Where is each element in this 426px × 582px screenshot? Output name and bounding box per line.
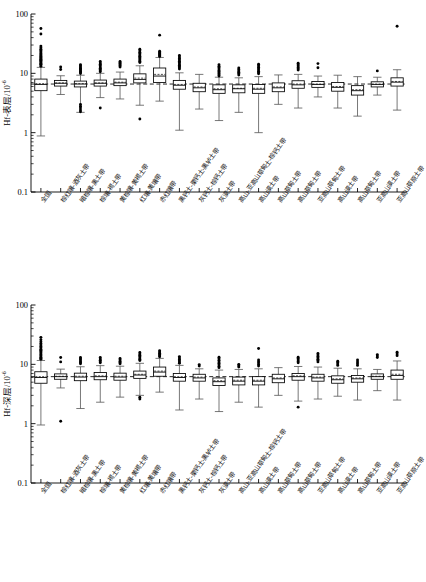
boxplot-box xyxy=(94,60,106,109)
y-tick-label: 0.1 xyxy=(18,479,28,488)
y-tick-label: 10 xyxy=(20,360,28,369)
boxplot-box xyxy=(55,356,67,423)
y-tick-label: 10 xyxy=(20,69,28,78)
boxplot-box xyxy=(312,62,324,97)
panel-deep-layer: Hf-深层/10-6 1001010.1 全国棕红壤-酒灰土带暗棕壤-黑土带棕壤… xyxy=(0,291,412,582)
y-tick-label: 1 xyxy=(24,420,28,429)
boxplot-box xyxy=(193,74,205,109)
boxplot-box xyxy=(134,351,146,401)
boxplot-box xyxy=(233,67,245,113)
boxplot-box xyxy=(213,356,225,412)
boxplot-box xyxy=(193,363,205,399)
boxplot-box xyxy=(173,54,185,130)
boxplot-box xyxy=(55,66,67,95)
boxplot-box xyxy=(114,357,126,397)
boxplot-box xyxy=(252,63,264,133)
boxplot-box xyxy=(312,352,324,399)
boxplot-box xyxy=(173,355,185,410)
boxplot-box xyxy=(74,63,86,113)
x-axis-labels-bottom: 全国棕红壤-酒灰土带暗棕壤-黑土带棕壤-褐土带黄棕壤-黄褐土带红壤-黄壤带赤红壤… xyxy=(0,489,412,582)
boxplot-box xyxy=(391,25,403,110)
y-tick-label: 1 xyxy=(24,129,28,138)
boxplot-box xyxy=(371,353,383,391)
boxplot-box xyxy=(332,75,344,108)
boxplot-box xyxy=(391,351,403,400)
boxplot-box xyxy=(272,368,284,396)
boxplot-box xyxy=(332,360,344,396)
boxplot-box xyxy=(74,356,86,409)
boxplot-box xyxy=(153,349,165,392)
boxplot-box xyxy=(35,336,47,425)
boxplot-box xyxy=(351,77,363,116)
boxplot-box xyxy=(213,63,225,120)
boxplot-box xyxy=(35,27,47,136)
boxplot-box xyxy=(272,75,284,104)
panel-surface-layer: Hf-表层/10-6 1001010.1 全国棕红壤-酒灰土带暗棕壤-黑土带棕壤… xyxy=(0,0,412,291)
boxplot-box xyxy=(252,347,264,407)
boxplot-box xyxy=(233,363,245,402)
boxplot-box xyxy=(94,356,106,402)
boxplot-box xyxy=(351,359,363,400)
boxplot-box xyxy=(292,62,304,108)
y-tick-label: 100 xyxy=(15,10,28,19)
boxplot-box xyxy=(371,69,383,95)
boxplot-box xyxy=(153,34,165,101)
boxplot-box xyxy=(114,60,126,99)
boxplot-box xyxy=(292,356,304,409)
y-tick-label: 0.1 xyxy=(18,188,28,197)
y-tick-label: 100 xyxy=(15,301,28,310)
